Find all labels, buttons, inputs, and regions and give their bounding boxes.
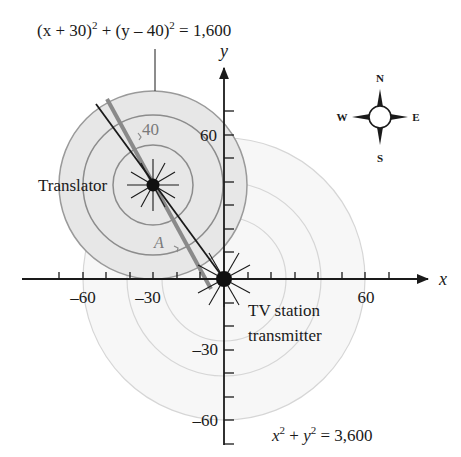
ring-label-40: 40	[142, 120, 159, 139]
tv-station-label-line2: transmitter	[248, 326, 322, 345]
y-tick-minus-30: –30	[192, 340, 219, 359]
compass-rose-icon: N S E W	[337, 72, 420, 164]
y-tick-minus-60: –60	[192, 411, 219, 430]
compass-s: S	[377, 152, 383, 164]
y-tick-60: 60	[200, 126, 217, 145]
compass-e: E	[412, 111, 419, 123]
equation-transmitter-circle: x2 + y2 = 3,600	[271, 424, 373, 445]
translator-label: Translator	[38, 176, 108, 195]
compass-n: N	[376, 72, 384, 84]
y-axis-label: y	[218, 41, 228, 61]
equation-translator-circle: (x + 30)2 + (y – 40)2 = 1,600	[37, 19, 231, 40]
coordinate-diagram: N S E W (x + 30)2 + (y – 40)2 = 1,600 x2…	[0, 0, 461, 457]
x-axis-label: x	[438, 269, 447, 289]
tv-station-label-line1: TV station	[248, 301, 320, 320]
x-tick-minus-30: –30	[134, 288, 161, 307]
point-a-label: A	[153, 234, 164, 251]
compass-w: W	[337, 111, 348, 123]
x-tick-60: 60	[358, 288, 375, 307]
x-tick-minus-60: –60	[69, 288, 96, 307]
